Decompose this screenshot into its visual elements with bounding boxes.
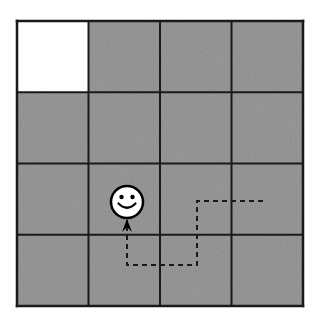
grid-cell-texture-r3-c2	[160, 235, 232, 306]
grid-cell-texture-r2-c2	[160, 164, 232, 235]
grid-cell-texture-r1-c0	[17, 92, 89, 163]
grid-cell-texture-r0-c3	[232, 21, 304, 92]
smiley-eye-right	[130, 195, 134, 199]
grid-cell-texture-r2-c3	[232, 164, 304, 235]
grid-cell-texture-r1-c1	[89, 92, 161, 163]
grid-cell-texture-r3-c0	[17, 235, 89, 306]
grid-maze-svg	[0, 0, 314, 321]
grid-cell-texture-r1-c2	[160, 92, 232, 163]
smiley-face-circle[interactable]	[111, 186, 143, 218]
grid-cell-texture-r0-c2	[160, 21, 232, 92]
grid-cell-r0-c0[interactable]	[17, 21, 89, 92]
grid-cell-texture-r0-c1	[89, 21, 161, 92]
smiley-eye-left	[119, 195, 123, 199]
grid-cell-texture-r2-c0	[17, 164, 89, 235]
smiley-face-icon	[111, 186, 143, 218]
gridworld-scene	[0, 0, 314, 321]
grid-cell-texture-r1-c3	[232, 92, 304, 163]
grid-cell-texture-r3-c3	[232, 235, 304, 306]
grid-cell-texture-r3-c1	[89, 235, 161, 306]
